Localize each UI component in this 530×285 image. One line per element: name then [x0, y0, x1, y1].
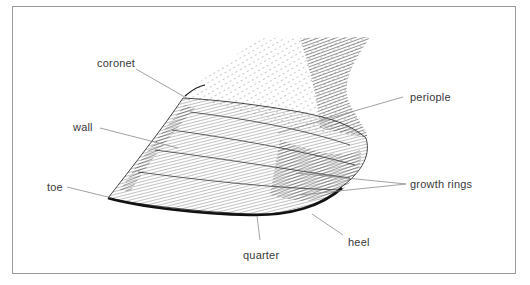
heel-leader: [312, 214, 343, 235]
quarter-leader: [257, 216, 260, 240]
label-growth-rings: growth rings: [410, 178, 472, 190]
toe-leader: [67, 187, 112, 198]
label-coronet: coronet: [97, 57, 135, 69]
coronet-leader: [136, 69, 190, 100]
hoof-illustration: [0, 0, 530, 285]
label-toe: toe: [47, 181, 63, 193]
label-periople: periople: [410, 91, 451, 103]
label-wall: wall: [73, 121, 93, 133]
label-heel: heel: [348, 236, 370, 248]
label-quarter: quarter: [243, 249, 279, 261]
